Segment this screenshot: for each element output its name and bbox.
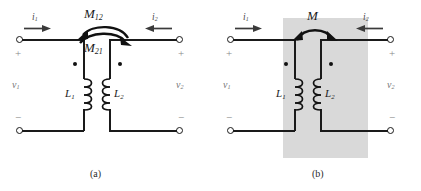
- label-current-i2-a: i2: [152, 13, 158, 23]
- sign-plus-v2-b: +: [389, 48, 395, 59]
- label-l1b-sub: 1: [282, 93, 285, 100]
- sign-minus-v2-b: −: [389, 112, 395, 123]
- polarity-dot-b-right: [329, 62, 333, 66]
- wire-a-right-vert-lower: [109, 109, 111, 131]
- wire-b-bottom-right: [320, 130, 388, 132]
- coil-inductor-l2-b: [308, 77, 322, 111]
- caption-panel-b: (b): [312, 168, 324, 179]
- label-v2-sub: 2: [180, 83, 183, 90]
- label-m21: M21: [84, 41, 103, 56]
- sign-minus-v1-a: −: [15, 112, 21, 123]
- label-voltage-v2-b: v2: [387, 80, 395, 91]
- label-voltage-v1-b: v1: [223, 80, 231, 91]
- current-arrow-i1-a: [24, 24, 52, 33]
- label-i2-sub: 2: [155, 16, 158, 22]
- current-arrow-i1-b: [235, 24, 263, 33]
- label-m12-sub: 12: [95, 13, 103, 22]
- label-inductor-l1-a: L1: [65, 88, 75, 100]
- label-i2b-sub: 2: [366, 16, 369, 22]
- caption-panel-a: (a): [90, 168, 101, 179]
- label-m12-letter: M: [84, 6, 95, 21]
- label-inductor-l1-b: L1: [276, 88, 286, 100]
- wire-a-bottom-left: [22, 130, 84, 132]
- polarity-dot-b-left: [284, 62, 288, 66]
- label-m-letter: M: [307, 8, 318, 23]
- label-i1-sub: 1: [35, 16, 38, 22]
- label-voltage-v1-a: v1: [12, 80, 20, 91]
- wire-a-bottom-right: [109, 130, 177, 132]
- label-current-i1-b: i1: [243, 13, 249, 23]
- wire-b-right-vert-upper: [320, 39, 322, 79]
- label-m12: M12: [84, 7, 103, 22]
- sign-plus-v1-a: +: [15, 48, 21, 59]
- current-arrow-i2-b: [355, 24, 383, 33]
- current-arrow-i2-a: [144, 24, 172, 33]
- label-voltage-v2-a: v2: [176, 80, 184, 91]
- label-l2b-sub: 2: [331, 93, 334, 100]
- label-v2b-sub: 2: [391, 83, 394, 90]
- label-l2-sub: 2: [120, 93, 123, 100]
- wire-a-right-vert-upper: [109, 39, 111, 79]
- label-inductor-l2-a: L2: [114, 88, 124, 100]
- wire-b-top-left: [233, 39, 295, 41]
- label-current-i1-a: i1: [32, 13, 38, 23]
- wire-b-bottom-left: [233, 130, 295, 132]
- terminal-b-top-right: [387, 36, 394, 43]
- coil-inductor-l1-b: [294, 77, 308, 111]
- terminal-a-top-right: [176, 36, 183, 43]
- sign-minus-v1-b: −: [226, 112, 232, 123]
- wire-b-left-vert-upper: [294, 39, 296, 79]
- sign-plus-v1-b: +: [226, 48, 232, 59]
- terminal-b-bottom-right: [387, 127, 394, 134]
- wire-a-left-vert-lower: [83, 109, 85, 131]
- label-i1b-sub: 1: [246, 16, 249, 22]
- label-current-i2-b: i2: [363, 13, 369, 23]
- label-l1-sub: 1: [71, 93, 74, 100]
- label-m-b: M: [307, 9, 318, 22]
- wire-b-right-vert-lower: [320, 109, 322, 131]
- sign-plus-v2-a: +: [178, 48, 184, 59]
- label-m21-sub: 21: [95, 47, 103, 56]
- label-v1b-sub: 1: [227, 83, 230, 90]
- coil-inductor-l1: [83, 77, 97, 111]
- coil-inductor-l2: [97, 77, 111, 111]
- label-inductor-l2-b: L2: [325, 88, 335, 100]
- label-m21-letter: M: [84, 40, 95, 55]
- sign-minus-v2-a: −: [178, 112, 184, 123]
- polarity-dot-a-left: [73, 62, 77, 66]
- panel-b: M i1 i2 L1 L2 + − v1 + −: [211, 0, 421, 191]
- label-v1-sub: 1: [16, 83, 19, 90]
- polarity-dot-a-right: [118, 62, 122, 66]
- figure-root: M12 M21 i1 i2 L1 L2 + −: [0, 0, 421, 191]
- terminal-a-bottom-right: [176, 127, 183, 134]
- wire-b-left-vert-lower: [294, 109, 296, 131]
- panel-a: M12 M21 i1 i2 L1 L2 + −: [0, 0, 210, 191]
- mutual-coupling-arrow-b: [290, 22, 340, 42]
